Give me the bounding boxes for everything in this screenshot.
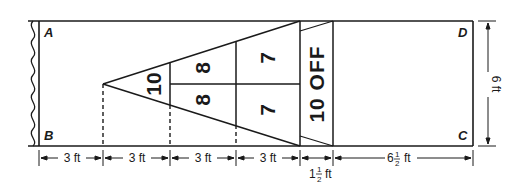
dimension-seg5-whole: 1 (309, 167, 316, 181)
dimension-seg5-num: 1 (317, 165, 322, 174)
off-zone-top-diagonal (300, 21, 333, 31)
dimension-seg2: 3 ft (129, 151, 146, 165)
dimension-row (39, 21, 496, 166)
off-zone-bottom-diagonal (300, 136, 333, 146)
corner-label-d: D (458, 25, 468, 40)
dimension-seg6-den: 2 (395, 159, 400, 168)
dimension-seg6-unit: ft (404, 151, 411, 165)
zone-8-bottom-label: 8 (191, 94, 214, 106)
zone-10-off-label: 10 OFF (305, 45, 328, 122)
dimension-seg5-den: 2 (317, 175, 322, 184)
break-line (31, 21, 34, 146)
dimension-seg6-num: 1 (395, 150, 400, 159)
dimension-height: 6 ft (489, 76, 503, 93)
dimension-seg3: 3 ft (195, 151, 212, 165)
dimension-seg1: 3 ft (64, 151, 81, 165)
corner-label-a: A (43, 25, 53, 40)
zone-10-label: 10 (142, 72, 165, 95)
shuffleboard-diagram: A B C D 10 8 8 7 7 10 OFF (0, 0, 517, 191)
zone-7-bottom-label: 7 (256, 104, 279, 116)
dimension-seg5-unit: ft (325, 167, 332, 181)
zone-8-top-label: 8 (191, 62, 214, 74)
dimension-seg4: 3 ft (260, 151, 277, 165)
corner-label-b: B (44, 128, 53, 143)
zone-7-top-label: 7 (256, 52, 279, 64)
dimension-seg6-whole: 6 (387, 151, 394, 165)
corner-label-c: C (458, 128, 468, 143)
